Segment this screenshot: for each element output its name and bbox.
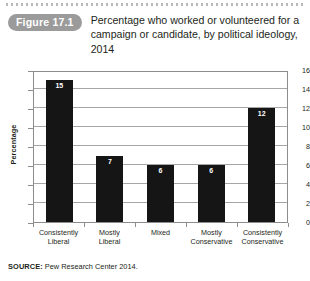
x-axis-category-line: Conservative bbox=[238, 237, 287, 246]
y-tick-mark bbox=[28, 128, 33, 129]
x-axis-category-label: MostlyLiberal bbox=[84, 228, 135, 247]
y-tick-mark bbox=[28, 204, 33, 205]
source-label: SOURCE: bbox=[8, 262, 43, 271]
x-tick-mark bbox=[135, 223, 136, 227]
bar[interactable]: 6 bbox=[198, 165, 225, 222]
y-tick-label: 14 bbox=[284, 86, 310, 93]
bar[interactable]: 12 bbox=[248, 108, 275, 222]
y-tick-label: 2 bbox=[284, 200, 310, 207]
top-dotted-divider bbox=[6, 3, 304, 6]
y-tick-label: 12 bbox=[284, 105, 310, 112]
x-axis-category-line: Conservative bbox=[187, 237, 236, 246]
bar-chart: Percentage 1576612 0246810121416 Consist… bbox=[0, 62, 310, 257]
figure-number-badge: Figure 17.1 bbox=[8, 14, 82, 31]
y-tick-mark bbox=[28, 185, 33, 186]
y-tick-mark bbox=[28, 109, 33, 110]
y-tick-label: 16 bbox=[284, 67, 310, 74]
x-axis-category-line: Mostly bbox=[85, 228, 134, 237]
y-tick-label: 8 bbox=[284, 143, 310, 150]
y-tick-label: 6 bbox=[284, 162, 310, 169]
bar-slot: 6 bbox=[186, 72, 237, 222]
x-tick-mark bbox=[288, 223, 289, 227]
x-axis-category-line: Liberal bbox=[34, 237, 83, 246]
y-tick-mark bbox=[28, 90, 33, 91]
x-axis-category-line: Mixed bbox=[136, 228, 185, 237]
x-axis-category-label: ConsistentlyLiberal bbox=[33, 228, 84, 247]
bar-slot: 7 bbox=[85, 72, 136, 222]
source-text: Pew Research Center 2014. bbox=[43, 262, 138, 271]
y-axis-title: Percentage bbox=[9, 115, 18, 175]
figure-header: Figure 17.1 Percentage who worked or vol… bbox=[0, 13, 310, 56]
bar-slot: 6 bbox=[135, 72, 186, 222]
bar[interactable]: 6 bbox=[147, 165, 174, 222]
bar[interactable]: 7 bbox=[96, 156, 123, 223]
x-tick-mark bbox=[33, 223, 34, 227]
x-axis-category-line: Liberal bbox=[85, 237, 134, 246]
x-axis-category-line: Consistently bbox=[34, 228, 83, 237]
x-axis-category-label: MostlyConservative bbox=[186, 228, 237, 247]
x-tick-mark bbox=[237, 223, 238, 227]
x-axis-category-label: Mixed bbox=[135, 228, 186, 247]
x-axis-labels: ConsistentlyLiberalMostlyLiberalMixedMos… bbox=[33, 228, 288, 247]
x-axis-category-label: ConsistentlyConservative bbox=[237, 228, 288, 247]
y-tick-mark bbox=[28, 166, 33, 167]
bar-slot: 15 bbox=[34, 72, 85, 222]
y-tick-mark bbox=[28, 71, 33, 72]
x-axis-category-line: Consistently bbox=[238, 228, 287, 237]
bar-value-label: 6 bbox=[198, 167, 225, 174]
bar-value-label: 6 bbox=[147, 167, 174, 174]
bar-value-label: 15 bbox=[46, 82, 73, 89]
x-tick-mark bbox=[84, 223, 85, 227]
bar-value-label: 12 bbox=[248, 110, 275, 117]
bars-container: 1576612 bbox=[34, 72, 287, 222]
y-tick-label: 10 bbox=[284, 124, 310, 131]
x-axis-category-line: Mostly bbox=[187, 228, 236, 237]
y-tick-mark bbox=[28, 147, 33, 148]
y-tick-label: 4 bbox=[284, 181, 310, 188]
plot-area: 1576612 bbox=[33, 71, 288, 223]
x-tick-mark bbox=[186, 223, 187, 227]
bar-value-label: 7 bbox=[96, 158, 123, 165]
figure-title: Percentage who worked or volunteered for… bbox=[91, 13, 304, 56]
bar[interactable]: 15 bbox=[46, 80, 73, 223]
source-note: SOURCE: Pew Research Center 2014. bbox=[8, 263, 138, 270]
bar-slot: 12 bbox=[236, 72, 287, 222]
